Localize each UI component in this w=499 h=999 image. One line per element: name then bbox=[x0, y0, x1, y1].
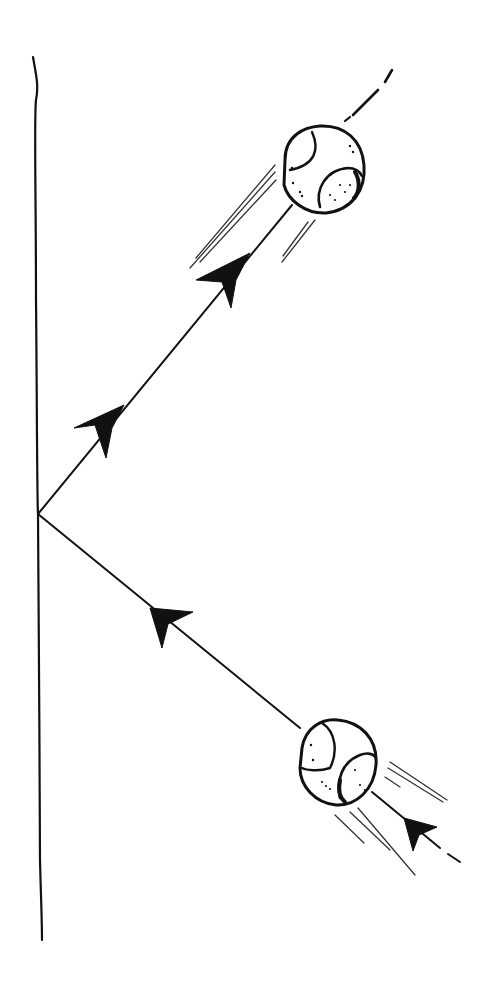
arrow-head-icon bbox=[150, 608, 193, 648]
outgoing-path bbox=[38, 70, 392, 514]
wall-icon bbox=[33, 57, 42, 940]
ball-icon bbox=[284, 126, 364, 213]
ball-icon bbox=[300, 720, 376, 805]
bounce-diagram bbox=[0, 0, 499, 999]
incoming-path bbox=[38, 514, 460, 862]
motion-lines-icon bbox=[335, 762, 447, 875]
arrow-head-icon bbox=[196, 253, 250, 308]
arrow-head-icon bbox=[74, 405, 124, 458]
